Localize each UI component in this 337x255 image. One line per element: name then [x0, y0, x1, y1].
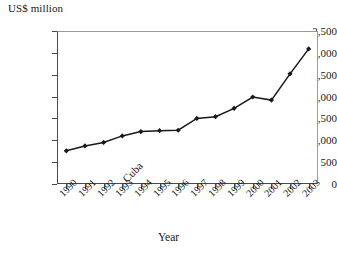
x-axis-title: Year	[0, 231, 337, 243]
line-chart: US$ million 05001,0001,5002,0002,5003,00…	[0, 0, 337, 255]
y-axis-title: US$ million	[8, 2, 63, 14]
plot-area	[57, 31, 318, 184]
y-axis-tick-mark	[52, 184, 57, 185]
